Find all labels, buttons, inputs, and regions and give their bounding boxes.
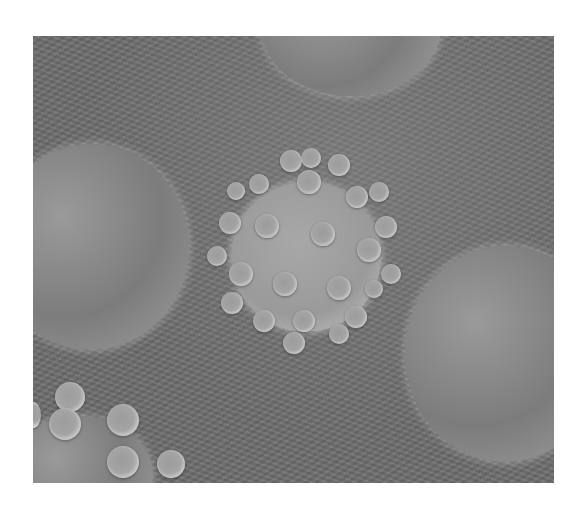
spike bbox=[381, 264, 401, 284]
spike bbox=[365, 280, 383, 298]
spike bbox=[327, 276, 351, 300]
spike bbox=[49, 408, 81, 440]
spike bbox=[107, 404, 139, 436]
cell-right bbox=[405, 246, 554, 462]
micrograph-photo bbox=[33, 36, 554, 483]
spike bbox=[329, 324, 349, 344]
spike bbox=[369, 182, 389, 202]
spike bbox=[293, 310, 315, 332]
spike bbox=[55, 382, 85, 412]
spike bbox=[311, 222, 335, 246]
spike bbox=[221, 292, 243, 314]
spike bbox=[229, 262, 253, 286]
spike bbox=[273, 272, 297, 296]
spike bbox=[219, 212, 241, 234]
spike bbox=[346, 186, 368, 208]
spike bbox=[280, 150, 302, 172]
cell-top-center bbox=[261, 36, 441, 96]
spike bbox=[249, 174, 269, 194]
spike bbox=[157, 450, 185, 478]
spike bbox=[227, 182, 245, 200]
spike bbox=[297, 170, 321, 194]
spike bbox=[357, 238, 381, 262]
spike bbox=[107, 446, 139, 478]
spike bbox=[375, 216, 397, 238]
spike bbox=[255, 214, 279, 238]
spike bbox=[253, 310, 275, 332]
cell-left bbox=[33, 144, 189, 350]
spike bbox=[345, 306, 367, 328]
spike bbox=[283, 332, 305, 354]
spike bbox=[207, 246, 227, 266]
spike bbox=[301, 148, 321, 168]
spike bbox=[328, 154, 350, 176]
